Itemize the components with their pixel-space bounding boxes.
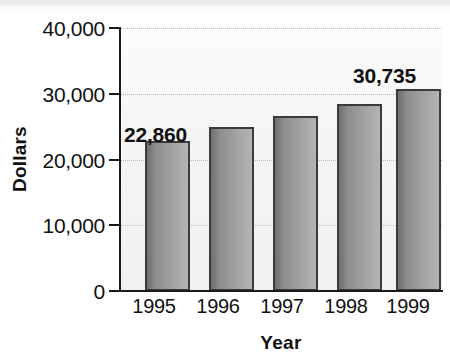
y-axis-title: Dollars bbox=[9, 111, 31, 207]
x-axis-title: Year bbox=[120, 332, 442, 354]
y-tick-label-10000: 10,000 bbox=[5, 215, 105, 236]
value-label-1995: 22,860 bbox=[124, 124, 187, 145]
y-tick-20000 bbox=[109, 159, 120, 161]
y-tick-0 bbox=[109, 290, 120, 292]
y-tick-40000 bbox=[109, 27, 120, 29]
value-label-1999: 30,735 bbox=[353, 65, 416, 86]
y-tick-label-30000: 30,000 bbox=[5, 84, 105, 105]
bar-1999[interactable] bbox=[396, 89, 441, 291]
y-tick-label-0: 0 bbox=[5, 281, 105, 302]
bar-1998[interactable] bbox=[337, 104, 382, 291]
x-tick-label-1999: 1999 bbox=[376, 296, 440, 316]
chart-screenshot: 40,000 30,000 20,000 10,000 0 Dollars Ye… bbox=[0, 0, 450, 362]
x-tick-label-1997: 1997 bbox=[250, 296, 314, 316]
y-tick-label-40000: 40,000 bbox=[5, 18, 105, 39]
gridline-30000 bbox=[120, 94, 442, 95]
y-tick-30000 bbox=[109, 93, 120, 95]
gridline-40000 bbox=[120, 28, 442, 29]
x-axis-line bbox=[119, 290, 443, 292]
x-tick-label-1998: 1998 bbox=[314, 296, 378, 316]
x-tick-label-1996: 1996 bbox=[186, 296, 250, 316]
y-tick-10000 bbox=[109, 224, 120, 226]
bar-1997[interactable] bbox=[273, 116, 318, 291]
bar-1995[interactable] bbox=[145, 141, 190, 291]
bar-1996[interactable] bbox=[209, 127, 254, 291]
x-tick-label-1995: 1995 bbox=[122, 296, 186, 316]
